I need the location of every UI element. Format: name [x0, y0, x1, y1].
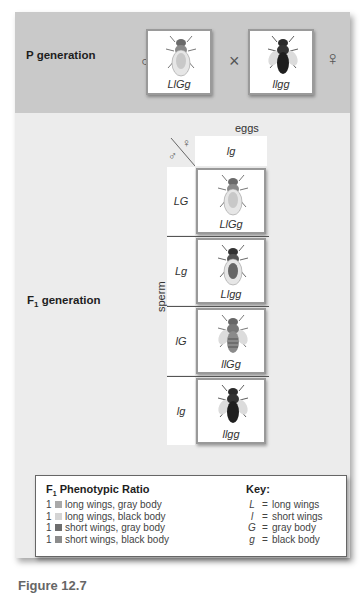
offspring-cell: llGg: [196, 308, 266, 374]
offspring-cell: llgg: [196, 378, 266, 444]
dihybrid-testcross-figure: P generation ♂ LlGg ×: [15, 12, 350, 558]
eggs-label: eggs: [235, 122, 259, 134]
key-list: L = long wings l = short wings G = gray …: [246, 499, 323, 545]
phenotypic-ratio-box: F1 Phenotypic Ratio 1 long wings, gray b…: [35, 475, 347, 557]
key-title: Key:: [246, 483, 270, 495]
sperm-label: sperm: [155, 281, 167, 312]
sperm-allele-label: Lg: [167, 237, 195, 305]
figure-caption: Figure 12.7: [18, 578, 87, 593]
key-item: L = long wings: [246, 499, 323, 511]
sperm-allele-label: lG: [167, 307, 195, 375]
egg-allele-header: lg: [195, 136, 267, 166]
gray-long-wing-fly-icon: [213, 173, 253, 221]
punnett-row: LG LlGg: [167, 167, 269, 235]
ratio-list: 1 long wings, gray body 1 long wings, bl…: [46, 499, 169, 545]
sperm-allele-label: LG: [167, 167, 195, 235]
key-item: l = short wings: [246, 511, 323, 523]
male-parent-fly-card: LlGg: [146, 29, 212, 95]
key-item: g = black body: [246, 534, 323, 546]
ratio-item: 1 short wings, black body: [46, 534, 169, 546]
punnett-row: Lg Llgg: [167, 237, 269, 305]
key-item: G = gray body: [246, 522, 323, 534]
black-short-wing-fly-icon: [263, 34, 303, 82]
punnett-row: lG llGg: [167, 307, 269, 375]
ratio-title: F1 Phenotypic Ratio: [46, 483, 150, 497]
offspring-genotype: llGg: [198, 358, 264, 370]
punnett-corner: ♂ ♀: [167, 136, 195, 166]
black-long-wing-fly-icon: [213, 243, 253, 291]
offspring-genotype: Llgg: [198, 288, 264, 300]
p-generation-label: P generation: [26, 49, 95, 61]
gray-short-wing-fly-icon: [213, 313, 253, 361]
female-parent-genotype: llgg: [250, 78, 312, 90]
swatch-icon: [55, 536, 62, 543]
f1-generation-label: F1 generation: [27, 294, 100, 309]
swatch-icon: [55, 501, 62, 508]
offspring-cell: LlGg: [196, 168, 266, 234]
gray-long-wing-fly-icon: [161, 34, 201, 82]
offspring-cell: Llgg: [196, 238, 266, 304]
ratio-item: 1 long wings, black body: [46, 511, 169, 523]
offspring-genotype: llgg: [198, 428, 264, 440]
black-short-wing-fly-icon: [213, 383, 253, 431]
punnett-row: lg llgg: [167, 377, 269, 445]
offspring-genotype: LlGg: [198, 218, 264, 230]
swatch-icon: [55, 513, 62, 520]
ratio-item: 1 short wings, gray body: [46, 522, 169, 534]
swatch-icon: [55, 524, 62, 531]
corner-male-symbol-icon: ♂: [168, 149, 177, 163]
ratio-item: 1 long wings, gray body: [46, 499, 169, 511]
corner-female-symbol-icon: ♀: [182, 136, 191, 150]
sperm-allele-label: lg: [167, 377, 195, 445]
cross-symbol: ×: [229, 52, 240, 70]
female-parent-fly-card: llgg: [248, 29, 314, 95]
male-parent-genotype: LlGg: [148, 78, 210, 90]
p-generation-band: P generation ♂ LlGg ×: [15, 12, 350, 113]
female-symbol-icon: ♀: [325, 48, 340, 68]
